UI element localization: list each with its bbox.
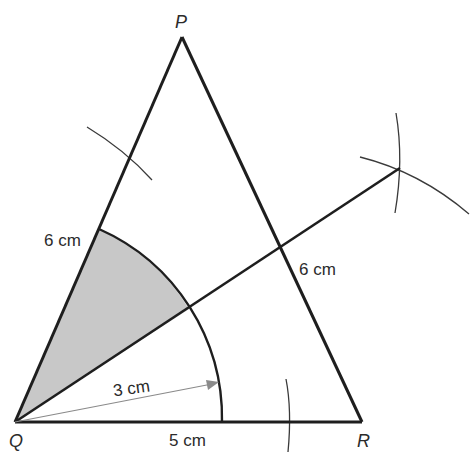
side-label-QP: 6 cm xyxy=(44,232,81,249)
side-label-QR: 5 cm xyxy=(169,432,206,449)
construction-arc-diagonal xyxy=(360,157,469,214)
radius-arrowhead-icon xyxy=(206,380,219,390)
triangle-construction-diagram xyxy=(0,0,472,456)
side-PR xyxy=(182,37,362,422)
radius-label: 3 cm xyxy=(112,378,151,400)
construction-arc-vertical xyxy=(395,113,400,213)
side-label-PR: 6 cm xyxy=(299,261,336,278)
vertex-label-R: R xyxy=(357,432,370,450)
vertex-label-Q: Q xyxy=(9,432,23,450)
construction-arc-on-QP xyxy=(87,127,152,180)
vertex-label-P: P xyxy=(175,13,187,31)
construction-arc-on-QR xyxy=(286,379,290,452)
